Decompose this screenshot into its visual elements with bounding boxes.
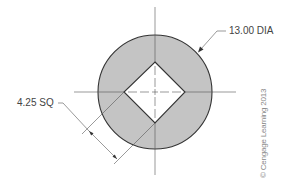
diameter-leader <box>201 31 226 49</box>
diameter-label: 13.00 DIA <box>229 26 273 36</box>
square-size-label: 4.25 SQ <box>17 98 54 108</box>
copyright-notice: © Cengage Learning 2013 <box>259 89 268 178</box>
